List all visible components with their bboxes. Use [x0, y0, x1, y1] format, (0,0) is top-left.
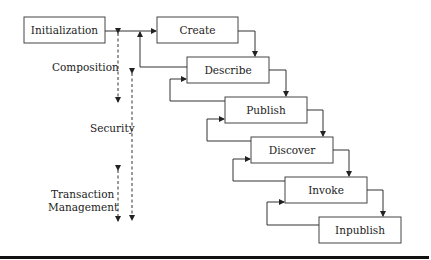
box-label: Describe	[204, 64, 251, 76]
box-inpublish: Inpublish	[319, 217, 401, 243]
feedback-inpublish-icon	[267, 202, 319, 225]
label-composition: Composition	[52, 61, 119, 73]
box-describe: Describe	[187, 57, 269, 83]
label-security: Security	[90, 122, 135, 134]
box-label: Inpublish	[335, 224, 385, 236]
bottom-rule	[0, 256, 429, 259]
box-label: Initialization	[31, 24, 99, 36]
arrow-invoke-inpublish-icon	[367, 190, 383, 216]
box-discover: Discover	[251, 137, 333, 163]
box-label: Invoke	[308, 184, 344, 196]
arrow-describe-publish-icon	[269, 70, 286, 96]
arrow-create-describe-icon	[238, 31, 255, 56]
box-publish: Publish	[225, 97, 307, 123]
arrow-publish-discover-icon	[307, 110, 323, 136]
waterfall-diagram: Initialization Create Describe Publish D…	[0, 0, 431, 260]
box-label: Discover	[269, 144, 317, 156]
box-label: Create	[180, 24, 216, 36]
box-invoke: Invoke	[285, 177, 367, 203]
arrow-discover-invoke-icon	[333, 150, 349, 176]
box-label: Publish	[246, 104, 286, 116]
box-create: Create	[157, 17, 238, 43]
label-management: Management	[48, 201, 119, 213]
box-initialization: Initialization	[24, 17, 105, 43]
label-transaction: Transaction	[51, 188, 114, 200]
